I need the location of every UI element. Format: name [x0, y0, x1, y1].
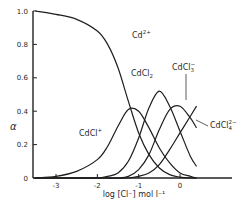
curve-label-4: CdCl42−: [210, 119, 237, 131]
curve-0: [35, 11, 196, 178]
x-tick-label: -2: [94, 182, 101, 190]
x-tick-label: -1: [135, 182, 142, 190]
axes: 00.20.40.60.81.0-3-2-10: [17, 8, 232, 191]
chart-svg: 00.20.40.60.81.0-3-2-10 Cd2+CdCl+CdCl2Cd…: [0, 0, 252, 212]
y-tick-label: 0.4: [17, 108, 29, 116]
y-tick-label: 0.2: [17, 141, 28, 149]
label-leader-line: [196, 120, 208, 126]
y-tick-label: 0.8: [17, 41, 28, 49]
curve-1: [35, 108, 196, 178]
curve-labels: Cd2+CdCl+CdCl2CdCl3−CdCl42−: [79, 29, 237, 138]
curve-3: [35, 106, 196, 179]
curve-2: [35, 91, 196, 178]
x-axis-label: log [Cl⁻] mol l⁻¹: [103, 190, 166, 199]
curve-label-0: Cd2+: [132, 29, 151, 40]
y-tick-label: 1.0: [17, 8, 28, 16]
curves: [35, 11, 196, 178]
curve-label-3: CdCl3−: [172, 61, 195, 73]
species-distribution-chart: 00.20.40.60.81.0-3-2-10 Cd2+CdCl+CdCl2Cd…: [0, 0, 252, 212]
curve-4: [35, 106, 196, 178]
curve-label-1: CdCl+: [79, 127, 102, 138]
y-tick-label: 0: [24, 175, 28, 183]
x-tick-label: 0: [178, 182, 182, 190]
curve-label-2: CdCl2: [131, 69, 153, 79]
y-axis-label: α: [10, 121, 17, 132]
y-tick-label: 0.6: [17, 74, 29, 82]
x-tick-label: -3: [53, 182, 60, 190]
